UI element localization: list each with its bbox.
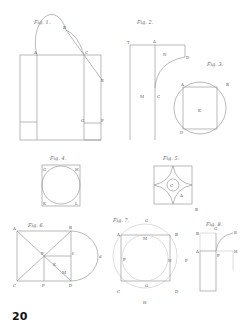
svg-text:D: D: [180, 130, 183, 135]
svg-text:B: B: [195, 207, 198, 212]
svg-text:B: B: [196, 231, 199, 236]
figure-4: Fig. 4. G H K L: [42, 155, 80, 206]
svg-text:T: T: [127, 40, 130, 45]
svg-text:K: K: [198, 108, 202, 113]
svg-text:A: A: [179, 193, 183, 198]
svg-text:N: N: [168, 258, 172, 263]
geometric-plate: Fig. 1. A B C E G F Fig. 2. T A N D M C …: [0, 0, 250, 327]
svg-text:F: F: [42, 283, 45, 288]
svg-text:C: C: [157, 94, 160, 99]
svg-text:C: C: [117, 289, 120, 294]
svg-text:C: C: [13, 283, 16, 288]
svg-text:A: A: [33, 50, 37, 55]
svg-text:C: C: [170, 183, 173, 188]
svg-text:E: E: [101, 78, 104, 83]
svg-text:P: P: [123, 257, 126, 262]
figure-5: Fig. 5. C A B: [154, 155, 198, 212]
svg-text:D: D: [186, 55, 189, 60]
svg-text:B: B: [226, 82, 229, 87]
fig5-title: Fig. 5.: [162, 155, 180, 162]
svg-text:M: M: [140, 94, 144, 99]
figure-6: Fig. 6. A B F f K M C F D d: [12, 222, 102, 288]
svg-text:F: F: [217, 253, 220, 258]
svg-text:K: K: [53, 262, 57, 267]
svg-text:A: A: [12, 226, 16, 231]
svg-text:A: A: [180, 82, 184, 87]
svg-text:H: H: [143, 300, 147, 305]
svg-text:M: M: [143, 236, 147, 241]
fig6-title: Fig. 6.: [27, 222, 45, 229]
svg-text:B: B: [63, 25, 66, 30]
svg-text:A: A: [152, 39, 156, 44]
svg-text:K: K: [43, 201, 47, 206]
svg-text:f: f: [72, 251, 74, 256]
svg-text:G: G: [145, 218, 148, 223]
page-number: 20: [12, 310, 27, 323]
figure-8: Fig. 8. B G E A F H: [195, 221, 238, 291]
figure-1: Fig. 1. A B C E G F: [20, 14, 104, 140]
svg-text:A: A: [195, 249, 199, 254]
fig4-title: Fig. 4.: [49, 155, 67, 162]
figure-2: Fig. 2. T A N D M C: [127, 19, 189, 140]
svg-text:d: d: [99, 254, 102, 259]
svg-text:M: M: [62, 270, 66, 275]
svg-text:F: F: [41, 251, 44, 256]
svg-text:L: L: [75, 201, 78, 206]
fig7-title: Fig. 7.: [112, 217, 130, 224]
svg-text:B: B: [175, 232, 178, 237]
svg-text:D: D: [69, 283, 72, 288]
svg-text:A: A: [116, 232, 120, 237]
svg-text:B: B: [69, 225, 72, 230]
svg-text:G: G: [43, 167, 46, 172]
svg-text:E: E: [234, 230, 237, 235]
svg-text:F: F: [185, 258, 188, 263]
svg-text:N: N: [163, 52, 167, 57]
figure-3: Fig. 3. A B K D: [174, 61, 229, 135]
svg-text:H: H: [234, 249, 238, 254]
svg-text:G: G: [81, 118, 84, 123]
svg-text:D: D: [175, 289, 178, 294]
fig3-title: Fig. 3.: [206, 61, 224, 68]
svg-text:O: O: [145, 283, 149, 288]
svg-text:H: H: [75, 167, 79, 172]
svg-text:C: C: [85, 50, 88, 55]
figure-7: Fig. 7. G A M B P N F C O D H: [112, 217, 188, 305]
fig2-title: Fig. 2.: [136, 19, 154, 26]
svg-text:G: G: [214, 226, 217, 231]
svg-text:F: F: [101, 118, 104, 123]
